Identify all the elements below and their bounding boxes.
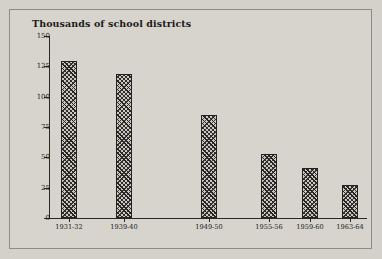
x-axis-tick-label: 1959-60: [296, 223, 323, 231]
x-axis-tick-label: 1939-40: [110, 223, 137, 231]
x-axis-tick: [310, 218, 311, 222]
x-axis-tick: [350, 218, 351, 222]
plot-area: 0255075100125150 1931-321939-401949-5019…: [0, 0, 382, 259]
x-axis-line: [49, 218, 367, 219]
y-axis-tick-label: 125: [24, 62, 50, 70]
bar: [261, 154, 277, 218]
y-axis-tick-label: 150: [24, 32, 50, 40]
bar: [201, 115, 217, 218]
x-axis-tick-label: 1949-50: [195, 223, 222, 231]
x-axis-tick-label: 1963-64: [336, 223, 363, 231]
x-axis-tick-label: 1931-32: [55, 223, 82, 231]
y-axis-tick-label: 50: [24, 153, 50, 161]
y-axis-tick-label: 100: [24, 93, 50, 101]
bar: [116, 74, 132, 218]
x-axis-tick-label: 1955-56: [255, 223, 282, 231]
y-axis-tick-label: 25: [24, 184, 50, 192]
x-axis-tick: [269, 218, 270, 222]
y-axis-tick-label: 0: [24, 214, 50, 222]
bar: [302, 168, 318, 218]
bar: [342, 185, 358, 218]
chart-figure: Thousands of school districts 0255075100…: [0, 0, 382, 259]
x-axis-tick: [124, 218, 125, 222]
x-axis-tick: [209, 218, 210, 222]
x-axis-tick: [69, 218, 70, 222]
bar: [61, 61, 77, 218]
y-axis-tick-label: 75: [24, 123, 50, 131]
